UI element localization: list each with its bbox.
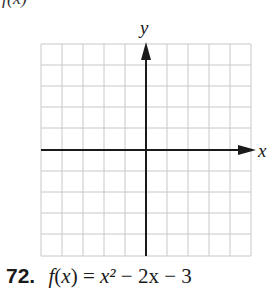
function-variable: x [61, 264, 70, 288]
minus-sign-1: − [121, 264, 133, 288]
equals-sign: = [83, 264, 95, 288]
minus-sign-2: − [164, 264, 176, 288]
problem-caption: 72. f(x) = x² − 2x − 3 [6, 264, 192, 289]
coordinate-grid: x y [0, 0, 275, 295]
function-equation: f(x) = x² − 2x − 3 [48, 264, 191, 288]
x-axis [41, 145, 256, 155]
term-constant: 3 [181, 264, 192, 288]
x-axis-arrow-icon [238, 145, 256, 155]
x-axis-label: x [257, 140, 267, 161]
function-name: f [48, 264, 54, 288]
problem-number: 72. [6, 264, 35, 287]
y-axis-label: y [138, 17, 149, 38]
term-2x: 2x [138, 264, 159, 288]
term-x-squared: x² [100, 264, 116, 288]
y-axis-arrow-icon [141, 42, 151, 60]
